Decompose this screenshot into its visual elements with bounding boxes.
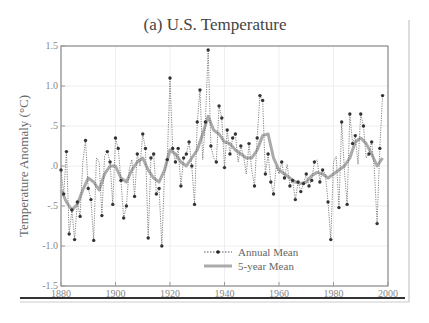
data-point [280,160,283,163]
data-point [247,142,250,145]
data-point [73,238,76,241]
data-point [190,164,193,167]
data-point [340,120,343,123]
data-point [76,200,79,203]
data-point [106,150,109,153]
data-point [141,132,144,135]
data-point [220,116,223,119]
data-point [185,152,188,155]
data-point [187,140,190,143]
data-point [155,192,158,195]
data-point [313,160,316,163]
data-point [253,184,256,187]
data-point [321,168,324,171]
data-point [119,179,122,182]
data-point [179,184,182,187]
data-point [209,144,212,147]
y-tick-label: .5 [51,120,59,131]
data-point [67,232,70,235]
data-point [231,136,234,139]
data-point [223,166,226,169]
x-tick-label: 2000 [378,288,398,299]
data-point [296,180,299,183]
legend-annual-label: Annual Mean [238,246,299,258]
legend-annual-marker [216,250,220,254]
data-point [171,147,174,150]
data-point [198,88,201,91]
legend-5yr-label: 5-year Mean [238,260,294,272]
data-point [176,147,179,150]
data-point [329,238,332,241]
data-point [147,236,150,239]
legend: Annual Mean 5-year Mean [204,246,299,272]
data-point [78,215,81,218]
data-point [196,120,199,123]
data-point [204,120,207,123]
data-point [125,204,128,207]
data-point [310,179,313,182]
data-point [288,184,291,187]
data-point [294,198,297,201]
data-point [261,99,264,102]
data-point [305,172,308,175]
data-point [100,214,103,217]
data-point [62,192,65,195]
data-point [258,94,261,97]
data-point [299,190,302,193]
data-point [256,136,259,139]
data-point [337,206,340,209]
data-point [92,239,95,242]
data-point [266,152,269,155]
data-point [84,139,87,142]
data-point [283,176,286,179]
y-tick-label: -.5 [47,200,58,211]
data-point [228,152,231,155]
data-point [182,156,185,159]
x-tick-label: 1920 [160,288,180,299]
data-point [239,144,242,147]
data-point [149,156,152,159]
data-point [152,152,155,155]
data-point [157,187,160,190]
data-point [215,160,218,163]
annual-mean-series [59,48,384,247]
data-point [206,48,209,51]
data-point [168,76,171,79]
data-point [345,203,348,206]
data-point [87,187,90,190]
data-point [272,192,275,195]
data-point [217,104,220,107]
y-tick-label: 1.0 [46,80,59,91]
data-point [117,147,120,150]
data-point [367,152,370,155]
x-tick-label: 1980 [324,288,344,299]
data-point [136,152,139,155]
data-point [375,222,378,225]
data-point [59,168,62,171]
data-point [89,198,92,201]
data-point [70,208,73,211]
data-point [348,112,351,115]
y-tick-label: 1.5 [46,40,59,51]
data-point [264,172,267,175]
data-point [381,94,384,97]
y-tick-label: -1.0 [42,240,58,251]
y-tick-label: .0 [51,160,59,171]
data-point [114,136,117,139]
data-point [302,182,305,185]
data-point [193,203,196,206]
data-point [111,203,114,206]
y-axis: 1.51.0.5.0-.5-1.0-1.5 [42,40,65,291]
data-point [351,142,354,145]
data-point [307,184,310,187]
x-tick-label: 1940 [215,288,235,299]
x-tick-label: 1960 [269,288,289,299]
y-axis-label: Temperature Anomaly (°C) [16,95,31,237]
data-point [354,134,357,137]
data-point [318,180,321,183]
data-point [226,128,229,131]
data-point [144,147,147,150]
data-point [359,112,362,115]
data-point [370,140,373,143]
x-tick-label: 1880 [51,288,71,299]
